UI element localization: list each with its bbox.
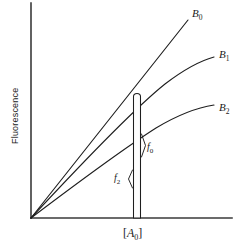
curve-label-B2: B2 — [219, 101, 230, 116]
annotation-label-f2: f2 — [114, 172, 121, 186]
curve-label-B2-subscript: 2 — [226, 107, 230, 116]
curve-B1 — [31, 57, 214, 218]
f2-brace — [129, 170, 133, 188]
x-axis-title: [A0] — [123, 226, 142, 242]
plot-canvas: B0 B1 B2 f0 f2 Fluorescence [A0] — [0, 0, 240, 245]
figure-container: B0 B1 B2 f0 f2 Fluorescence [A0] — [0, 0, 240, 245]
x-axis-title-bracket-close: ] — [138, 226, 142, 240]
annotation-label-f0: f0 — [147, 141, 154, 155]
annotation-label-f2-subscript: 2 — [117, 178, 121, 186]
a0-marker-bar — [134, 93, 141, 218]
curve-label-B1-subscript: 1 — [226, 54, 230, 63]
annotation-label-f0-subscript: 0 — [150, 147, 154, 155]
curve-B2 — [31, 105, 214, 218]
curve-B0 — [31, 20, 188, 218]
curve-label-B0-subscript: 0 — [199, 13, 203, 22]
curve-label-B1: B1 — [219, 48, 230, 63]
y-axis-title: Fluorescence — [10, 88, 20, 144]
curve-label-B0: B0 — [192, 7, 203, 22]
